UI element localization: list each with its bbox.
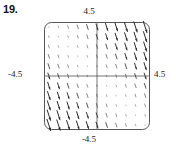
field-vector [77, 84, 78, 88]
field-vector [87, 84, 88, 87]
field-vector-arrowhead [106, 28, 108, 30]
field-vector [116, 75, 117, 78]
field-vector [135, 84, 136, 88]
field-vector [97, 85, 98, 87]
field-vector [68, 55, 69, 57]
field-vector-arrowhead [135, 57, 137, 59]
field-vector [135, 124, 136, 126]
field-vector-arrowhead [125, 29, 127, 32]
field-vector-arrowhead [77, 116, 79, 118]
field-vector-arrowhead [145, 30, 148, 33]
field-vector-arrowhead [116, 28, 118, 31]
field-vector [77, 75, 78, 78]
field-vector-arrowhead [145, 58, 147, 61]
field-vector-arrowhead [125, 38, 127, 41]
field-vector-arrowhead [116, 38, 118, 40]
field-vector [87, 75, 88, 77]
field-vector [116, 123, 117, 127]
field-vector [58, 55, 59, 58]
field-vector [58, 26, 59, 28]
field-vector-arrowhead [135, 29, 138, 32]
field-vector [68, 74, 69, 78]
field-vector [68, 36, 69, 38]
field-vector-arrowhead [58, 97, 60, 99]
field-vector [106, 75, 107, 77]
field-vector [135, 105, 136, 107]
field-vector [116, 85, 117, 87]
field-vector [106, 113, 107, 117]
field-vector [68, 65, 69, 68]
field-vector [106, 95, 107, 97]
field-vector [125, 84, 126, 87]
field-vector-arrowhead [125, 48, 127, 50]
field-vector-arrowhead [48, 97, 50, 100]
field-vector-arrowhead [77, 126, 79, 129]
field-vector [77, 25, 78, 29]
field-vector [97, 65, 98, 67]
field-vector-arrowhead [48, 107, 50, 110]
field-vector-arrowhead [87, 126, 89, 128]
field-vector-arrowhead [68, 117, 70, 120]
field-vector [145, 94, 146, 98]
field-vector [87, 45, 88, 48]
field-vector [106, 123, 108, 128]
field-vector [87, 103, 89, 108]
field-vector [58, 64, 59, 68]
field-vector-arrowhead [48, 117, 51, 120]
field-vector [48, 64, 50, 69]
field-vector [87, 25, 89, 30]
field-vector [87, 55, 88, 57]
field-vector-arrowhead [68, 106, 70, 108]
field-vector [67, 83, 69, 88]
field-vector [106, 65, 107, 68]
field-vector [68, 26, 69, 29]
field-vector [106, 54, 107, 58]
field-vector [77, 65, 78, 67]
field-vector [106, 104, 107, 107]
field-vector [77, 93, 79, 98]
field-vector-arrowhead [58, 107, 60, 110]
field-vector-arrowhead [145, 48, 147, 51]
field-vector [77, 35, 78, 38]
field-vector-arrowhead [135, 48, 137, 51]
field-vector [49, 36, 50, 38]
field-vector [106, 44, 108, 49]
field-vector [77, 46, 78, 48]
field-vector [126, 95, 127, 97]
field-vector [144, 83, 146, 88]
field-vector [48, 54, 49, 58]
field-vector [145, 114, 146, 116]
field-vector [125, 124, 126, 127]
field-vector-arrowhead [135, 39, 137, 42]
field-vector [87, 94, 88, 98]
direction-field-plot [0, 0, 176, 152]
field-vector [58, 46, 59, 48]
field-vector [116, 64, 117, 68]
field-vector [48, 45, 49, 48]
field-vector [116, 114, 117, 117]
figure-container: 19. 4.5 -4.5 -4.5 4.5 [0, 0, 176, 152]
field-vector-arrowhead [145, 39, 148, 42]
field-vector-arrowhead [145, 67, 147, 69]
field-vector [116, 105, 117, 107]
field-vector-arrowhead [58, 117, 60, 120]
field-vector [115, 54, 117, 59]
field-vector [87, 35, 88, 39]
field-vector-arrowhead [48, 87, 50, 89]
field-vector [125, 74, 126, 78]
field-vector [135, 94, 136, 97]
field-vector [126, 114, 127, 116]
field-vector [145, 104, 146, 107]
field-vector [125, 64, 127, 69]
